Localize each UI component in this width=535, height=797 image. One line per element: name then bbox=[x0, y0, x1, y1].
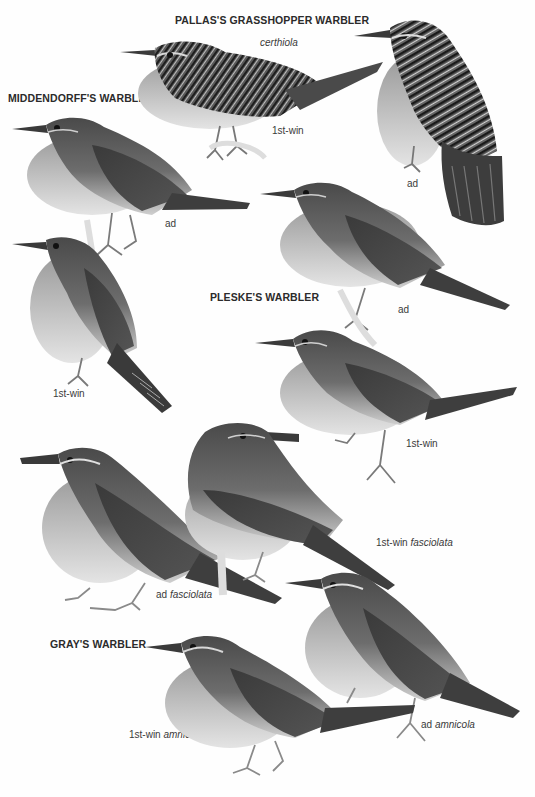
bird-pleske-ad-illustration bbox=[260, 180, 515, 330]
title-grays-warbler: GRAY'S WARBLER bbox=[50, 638, 146, 650]
bird-grays-1st-win-amnicola-illustration bbox=[145, 633, 420, 783]
illustration-plate: PALLAS'S GRASSHOPPER WARBLER certhiola M… bbox=[0, 0, 535, 797]
title-pallas-grasshopper-warbler: PALLAS'S GRASSHOPPER WARBLER bbox=[175, 14, 369, 26]
bird-middendorff-1st-win-illustration bbox=[12, 238, 177, 416]
